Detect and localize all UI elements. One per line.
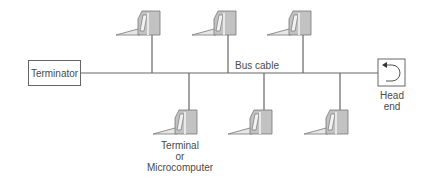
terminal-label-line2: or [140, 151, 220, 162]
terminal-icon [267, 11, 311, 35]
terminal-icon [192, 11, 236, 35]
head-end-label-line2: end [372, 101, 412, 112]
terminal-label-line3: Microcomputer [140, 162, 220, 173]
terminal-icon [153, 110, 197, 134]
head-end-box [378, 59, 405, 86]
terminator-label: Terminator [28, 68, 81, 79]
terminal-label: Terminal or Microcomputer [140, 140, 220, 173]
head-end-label-line1: Head [372, 90, 412, 101]
bus-cable-label: Bus cable [232, 60, 282, 71]
head-end-label: Head end [372, 90, 412, 112]
terminal-icon [304, 110, 348, 134]
terminal-label-line1: Terminal [140, 140, 220, 151]
terminal-icon [116, 11, 160, 35]
terminal-icon [228, 110, 272, 134]
